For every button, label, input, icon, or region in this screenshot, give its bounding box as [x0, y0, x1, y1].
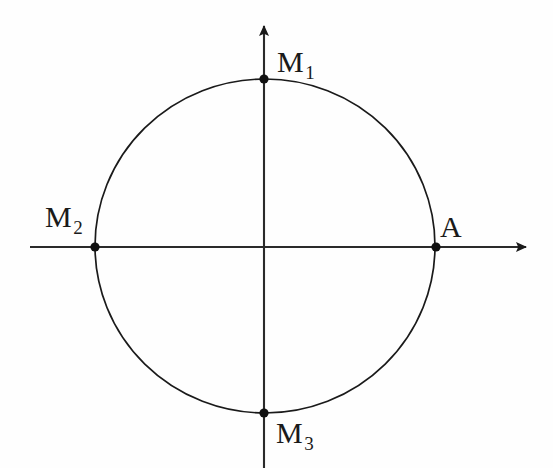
figure-canvas: M1 M2 M3 A: [0, 0, 553, 468]
label-m3-subscript: 3: [304, 433, 314, 454]
label-m1-text: M: [277, 45, 304, 78]
point-m2: [90, 242, 99, 251]
point-m1: [259, 74, 268, 83]
point-a: [431, 242, 440, 251]
label-m1-subscript: 1: [305, 62, 315, 83]
label-a: A: [440, 212, 462, 242]
label-m2: M2: [45, 202, 82, 232]
label-m3-text: M: [276, 416, 303, 449]
label-m3: M3: [276, 418, 313, 448]
label-m1: M1: [277, 47, 314, 77]
label-m2-text: M: [45, 200, 72, 233]
label-a-text: A: [440, 210, 462, 243]
point-m3: [259, 408, 268, 417]
label-m2-subscript: 2: [73, 217, 83, 238]
